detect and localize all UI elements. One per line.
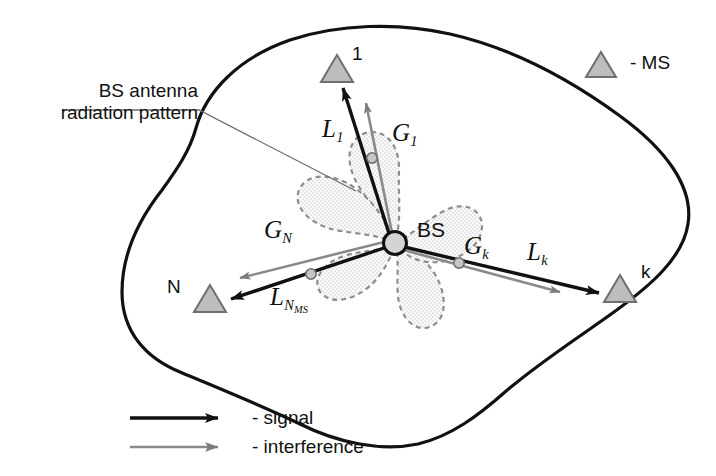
link-label-LNms-base: L (270, 283, 284, 310)
link-label-L1: L1 (322, 116, 343, 141)
link-label-Lk: Lk (527, 239, 547, 264)
ms-triangle-k (604, 275, 636, 302)
legend-sample-arrows (130, 418, 218, 447)
link-label-LNms-sub-sub: MS (294, 304, 308, 315)
link-label-G1-sub: 1 (410, 133, 417, 149)
link-label-L1-sub: 1 (336, 129, 343, 145)
radiation-pattern-lobes (298, 132, 482, 328)
link-label-L1-base: L (322, 115, 336, 142)
ms-label-k: k (641, 262, 651, 281)
legend-ms-text: - MS (630, 53, 670, 72)
link-label-Gk-sub: k (482, 246, 488, 262)
link-label-Gk: Gk (464, 233, 489, 258)
link-label-LNms-sub: NMS (284, 297, 308, 313)
link-label-LNms-sub-base: N (284, 297, 294, 313)
callout-line-1: BS antenna (60, 80, 198, 102)
ms-label-1: 1 (352, 44, 363, 63)
link-label-G1-base: G (392, 119, 410, 146)
link-label-GN-sub: N (282, 230, 292, 246)
link-label-GN: GN (264, 217, 292, 242)
ms-triangle-1 (321, 55, 353, 82)
link-label-Lk-sub: k (541, 252, 547, 268)
callout-label: BS antenna radiation pattern (60, 80, 198, 125)
bs-label: BS (417, 219, 445, 240)
cell-diagram-svg (0, 0, 716, 476)
link-label-GN-base: G (264, 216, 282, 243)
bs-node (384, 232, 407, 255)
legend-signal-text: - signal (252, 408, 313, 427)
link-label-LNms: LNMS (270, 284, 308, 309)
callout-line-2: radiation pattern (60, 102, 198, 124)
diagram-canvas: BS antenna radiation pattern BS 1 k N L1… (0, 0, 716, 476)
link-label-Lk-base: L (527, 238, 541, 265)
legend-interference-text: - interference (252, 437, 364, 456)
ms-triangle-legend (586, 52, 616, 77)
ms-triangle-n (194, 285, 226, 312)
link-label-Gk-base: G (464, 232, 482, 259)
ms-label-n: N (167, 277, 181, 296)
link-label-G1: G1 (392, 120, 417, 145)
